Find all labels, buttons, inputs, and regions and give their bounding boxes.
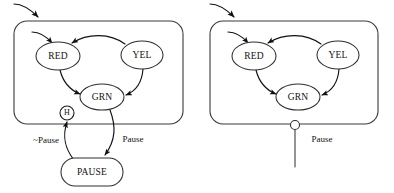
- transition-yel-to-red-right: [268, 36, 321, 44]
- guard-label-not-pause-left: ~Pause: [33, 135, 59, 145]
- statechart-diagram: RED YEL GRN PAUSE H ~Pause Pause: [0, 0, 394, 193]
- transition-pause-to-history-left: [65, 122, 74, 160]
- state-grn-label-left: GRN: [92, 92, 113, 102]
- transition-red-to-grn-left: [60, 70, 80, 94]
- guard-label-pause-left: Pause: [123, 134, 144, 144]
- statechart-canvas: RED YEL GRN PAUSE H ~Pause Pause: [0, 0, 394, 193]
- state-red-label-left: RED: [48, 51, 68, 61]
- pause-port-circle-right[interactable]: [291, 121, 300, 130]
- port-label-pause-right: Pause: [312, 134, 333, 144]
- initial-transition-to-red-right: [228, 32, 248, 43]
- state-grn-label-right: GRN: [288, 92, 309, 102]
- transition-red-to-grn-right: [256, 70, 276, 94]
- state-yel-label-right: YEL: [328, 50, 347, 60]
- state-yel-label-left: YEL: [132, 50, 151, 60]
- initial-transition-to-red-left: [32, 32, 52, 43]
- history-pseudostate-label-left: H: [64, 108, 70, 117]
- initial-transition-to-region-right: [210, 4, 234, 17]
- transition-yel-to-grn-right: [322, 69, 339, 95]
- panel-left: RED YEL GRN PAUSE H ~Pause Pause: [14, 4, 183, 186]
- transition-yel-to-grn-left: [126, 69, 143, 95]
- state-pause-label-left: PAUSE: [77, 167, 107, 177]
- transition-region-to-pause-left: [105, 110, 114, 155]
- state-red-label-right: RED: [244, 51, 264, 61]
- initial-transition-to-region-left: [14, 4, 38, 17]
- transition-yel-to-red-left: [72, 36, 125, 44]
- panel-right: RED YEL GRN Pause: [210, 4, 378, 167]
